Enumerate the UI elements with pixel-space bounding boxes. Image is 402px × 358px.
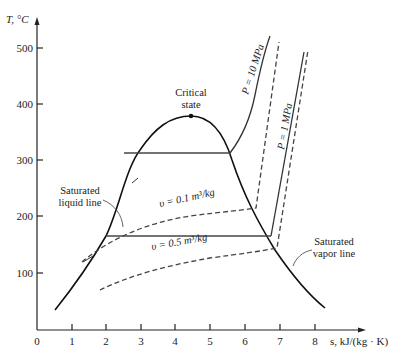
x-ticks — [72, 324, 315, 330]
saturated-liquid-label: liquid line — [59, 197, 102, 208]
v01-label: υ = 0.1 m³/kg — [158, 186, 216, 209]
v05-label: υ = 0.5 m³/kg — [150, 231, 208, 252]
y-tick-label: 100 — [17, 267, 34, 279]
x-tick-label: 0 — [34, 335, 40, 347]
saturated-vapor-label: vapor line — [313, 248, 356, 259]
y-axis-arrow-icon — [35, 17, 40, 25]
saturated-liquid-label: Saturated — [60, 185, 100, 196]
vapor-leader-line — [293, 250, 312, 266]
x-axis-title: s, kJ/(kg · K) — [330, 335, 388, 348]
y-tick-label: 200 — [17, 210, 34, 222]
y-tick-label: 500 — [17, 42, 34, 54]
x-tick-label: 1 — [69, 335, 75, 347]
x-tick-label: 2 — [103, 335, 109, 347]
saturated-vapor-label: Saturated — [314, 236, 354, 247]
x-tick-label: 3 — [138, 335, 144, 347]
critical-point — [189, 114, 194, 119]
y-axis-title: T, °C — [6, 13, 29, 25]
tangent-mark — [132, 178, 138, 183]
critical-state-label: Critical — [175, 87, 207, 98]
x-tick-label: 6 — [242, 335, 248, 347]
ts-diagram: 100 200 300 400 500 0 1 2 3 4 5 6 7 8 T,… — [0, 0, 402, 358]
liquid-leader-line — [103, 200, 123, 227]
x-tick-label: 7 — [277, 335, 283, 347]
critical-state-label: state — [181, 99, 201, 110]
axes — [37, 22, 360, 330]
x-axis-arrow-icon — [358, 328, 366, 333]
y-tick-label: 400 — [17, 98, 34, 110]
x-tick-label: 8 — [312, 335, 318, 347]
x-tick-label: 4 — [172, 335, 178, 347]
y-ticks — [37, 48, 43, 273]
y-tick-label: 300 — [17, 154, 34, 166]
x-tick-label: 5 — [207, 335, 213, 347]
p10-label: P = 10 MPa — [239, 43, 266, 97]
